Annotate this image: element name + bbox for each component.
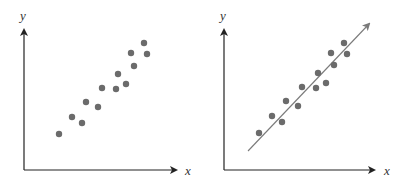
right-points [256, 40, 350, 136]
data-point [341, 40, 347, 46]
data-point [315, 70, 321, 76]
data-point [313, 85, 319, 91]
left-y-label: y [18, 8, 26, 23]
data-point [115, 71, 121, 77]
left-x-label: x [184, 163, 191, 178]
right-y-label: y [218, 8, 226, 23]
data-point [331, 62, 337, 68]
trend-line [248, 24, 369, 151]
data-point [83, 99, 89, 105]
data-point [299, 84, 305, 90]
data-point [99, 85, 105, 91]
right-x-label: x [383, 163, 390, 178]
data-point [344, 51, 350, 57]
scatter-diagrams: y x y x [0, 0, 409, 183]
data-point [95, 104, 101, 110]
data-point [56, 131, 62, 137]
data-point [144, 51, 150, 57]
data-point [128, 50, 134, 56]
data-point [295, 103, 301, 109]
data-point [328, 50, 334, 56]
data-point [323, 80, 329, 86]
data-point [141, 40, 147, 46]
data-point [113, 86, 119, 92]
data-point [69, 114, 75, 120]
data-point [256, 130, 262, 136]
data-point [123, 81, 129, 87]
right-plot: y x [218, 8, 390, 178]
data-point [283, 98, 289, 104]
data-point [269, 113, 275, 119]
data-point [79, 120, 85, 126]
left-points [56, 40, 150, 137]
data-point [131, 63, 137, 69]
data-point [279, 119, 285, 125]
left-plot: y x [18, 8, 191, 178]
